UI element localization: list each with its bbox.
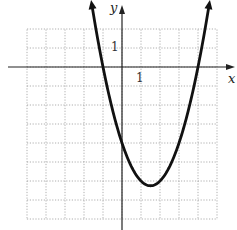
parabola-graph	[0, 0, 237, 230]
x-axis-label: x	[228, 71, 235, 86]
y-tick-label: 1	[111, 40, 119, 54]
axes	[8, 5, 235, 230]
y-axis-label: y	[110, 0, 117, 15]
parabola-curve	[89, 0, 213, 186]
x-tick-label: 1	[136, 71, 144, 85]
